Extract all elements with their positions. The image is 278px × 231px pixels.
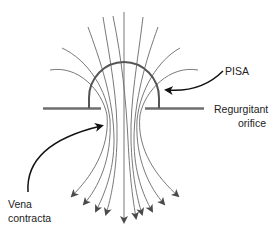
streamline-r3	[134, 27, 158, 211]
streamline-l1	[103, 17, 117, 214]
flow-streamlines	[50, 12, 198, 222]
pisa-diagram: PISA Regurgitant orifice Vena contracta	[0, 0, 278, 231]
regurgitant-orifice-label-line2: orifice	[238, 117, 266, 129]
vena-contracta-callout-arrow	[28, 126, 101, 192]
pisa-callout-arrow	[167, 71, 223, 90]
pisa-label: PISA	[225, 65, 249, 77]
vena-contracta-label-line1: Vena	[8, 198, 32, 210]
vena-contracta-label-line2: contracta	[8, 212, 51, 224]
regurgitant-orifice-label-line1: Regurgitant	[214, 103, 268, 115]
streamline-r4	[137, 48, 180, 204]
streamline-r2	[131, 17, 143, 214]
